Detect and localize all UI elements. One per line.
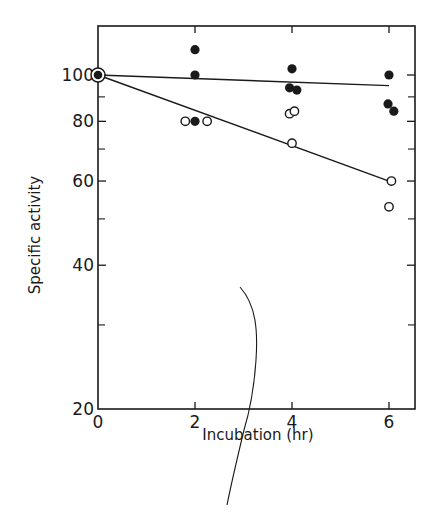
- origin-point: [94, 71, 103, 80]
- filled-point: [383, 99, 392, 108]
- filled-point: [190, 45, 199, 54]
- y-tick-label: 100: [62, 65, 94, 85]
- filled-point: [389, 107, 398, 116]
- open-point: [288, 139, 296, 147]
- y-tick-label: 80: [72, 111, 94, 131]
- tick-labels: 024620406080100: [62, 65, 395, 432]
- stray-pen-mark: [227, 287, 257, 505]
- x-tick-label: 2: [190, 412, 201, 432]
- filled-point: [287, 64, 296, 73]
- y-tick-label: 60: [72, 171, 94, 191]
- fit-line: [98, 75, 389, 181]
- open-point: [181, 117, 189, 125]
- filled-point: [190, 117, 199, 126]
- filled-point: [190, 70, 199, 79]
- open-point: [385, 203, 393, 211]
- fit-lines: [98, 75, 389, 181]
- x-tick-label: 0: [93, 412, 104, 432]
- open-point: [387, 177, 395, 185]
- open-point: [203, 117, 211, 125]
- y-tick-label: 40: [72, 255, 94, 275]
- open-point: [290, 107, 298, 115]
- filled-point: [292, 85, 301, 94]
- y-tick-label: 20: [72, 399, 94, 419]
- y-axis-label: Specific activity: [26, 176, 44, 295]
- filled-point: [384, 70, 393, 79]
- x-axis-label: Incubation (hr): [202, 426, 313, 444]
- fit-line: [98, 75, 389, 86]
- x-tick-label: 6: [384, 412, 395, 432]
- chart: 024620406080100 Incubation (hr) Specific…: [0, 0, 440, 513]
